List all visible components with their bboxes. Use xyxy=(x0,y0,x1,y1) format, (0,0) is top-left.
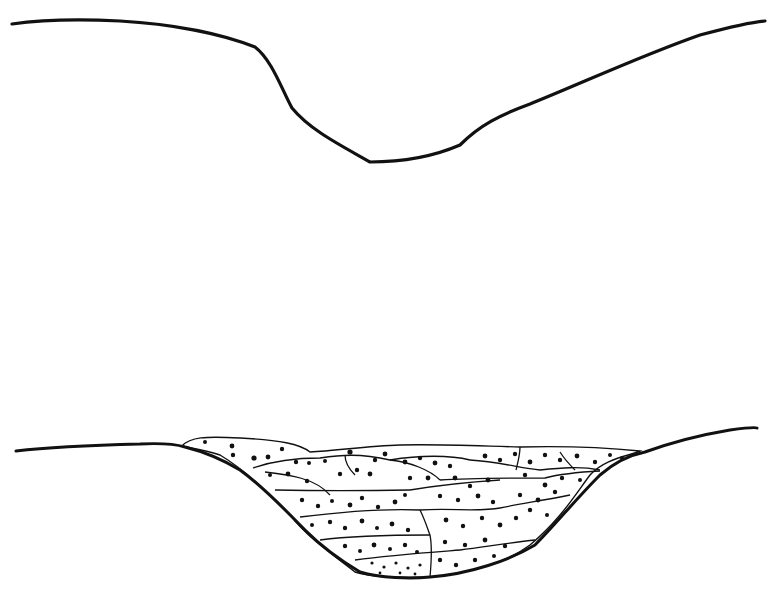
diagram-canvas xyxy=(0,0,769,603)
valley-profile-filled xyxy=(16,428,757,578)
valley-fill-diagram xyxy=(0,0,769,603)
valley-profile-empty xyxy=(12,20,765,162)
